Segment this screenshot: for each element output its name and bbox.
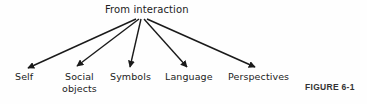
node-social-objects: Social objects [62, 71, 97, 95]
node-perspectives: Perspectives [228, 71, 289, 83]
node-social-objects-line-1: Social [62, 71, 97, 83]
arrow-to-symbols [130, 19, 141, 67]
node-social-objects-line-2: objects [62, 83, 97, 95]
arrow-to-self [28, 19, 136, 68]
root-node-from-interaction: From interaction [105, 4, 189, 16]
node-self: Self [15, 71, 33, 83]
arrow-to-perspectives [147, 19, 255, 67]
node-language: Language [165, 71, 213, 83]
diagram-canvas: From interaction Self Social objects Sym… [0, 0, 367, 104]
arrow-to-language [144, 19, 187, 67]
node-symbols: Symbols [110, 71, 151, 83]
arrow-to-social-objects [77, 19, 139, 66]
figure-caption: FIGURE 6-1 [305, 82, 355, 92]
